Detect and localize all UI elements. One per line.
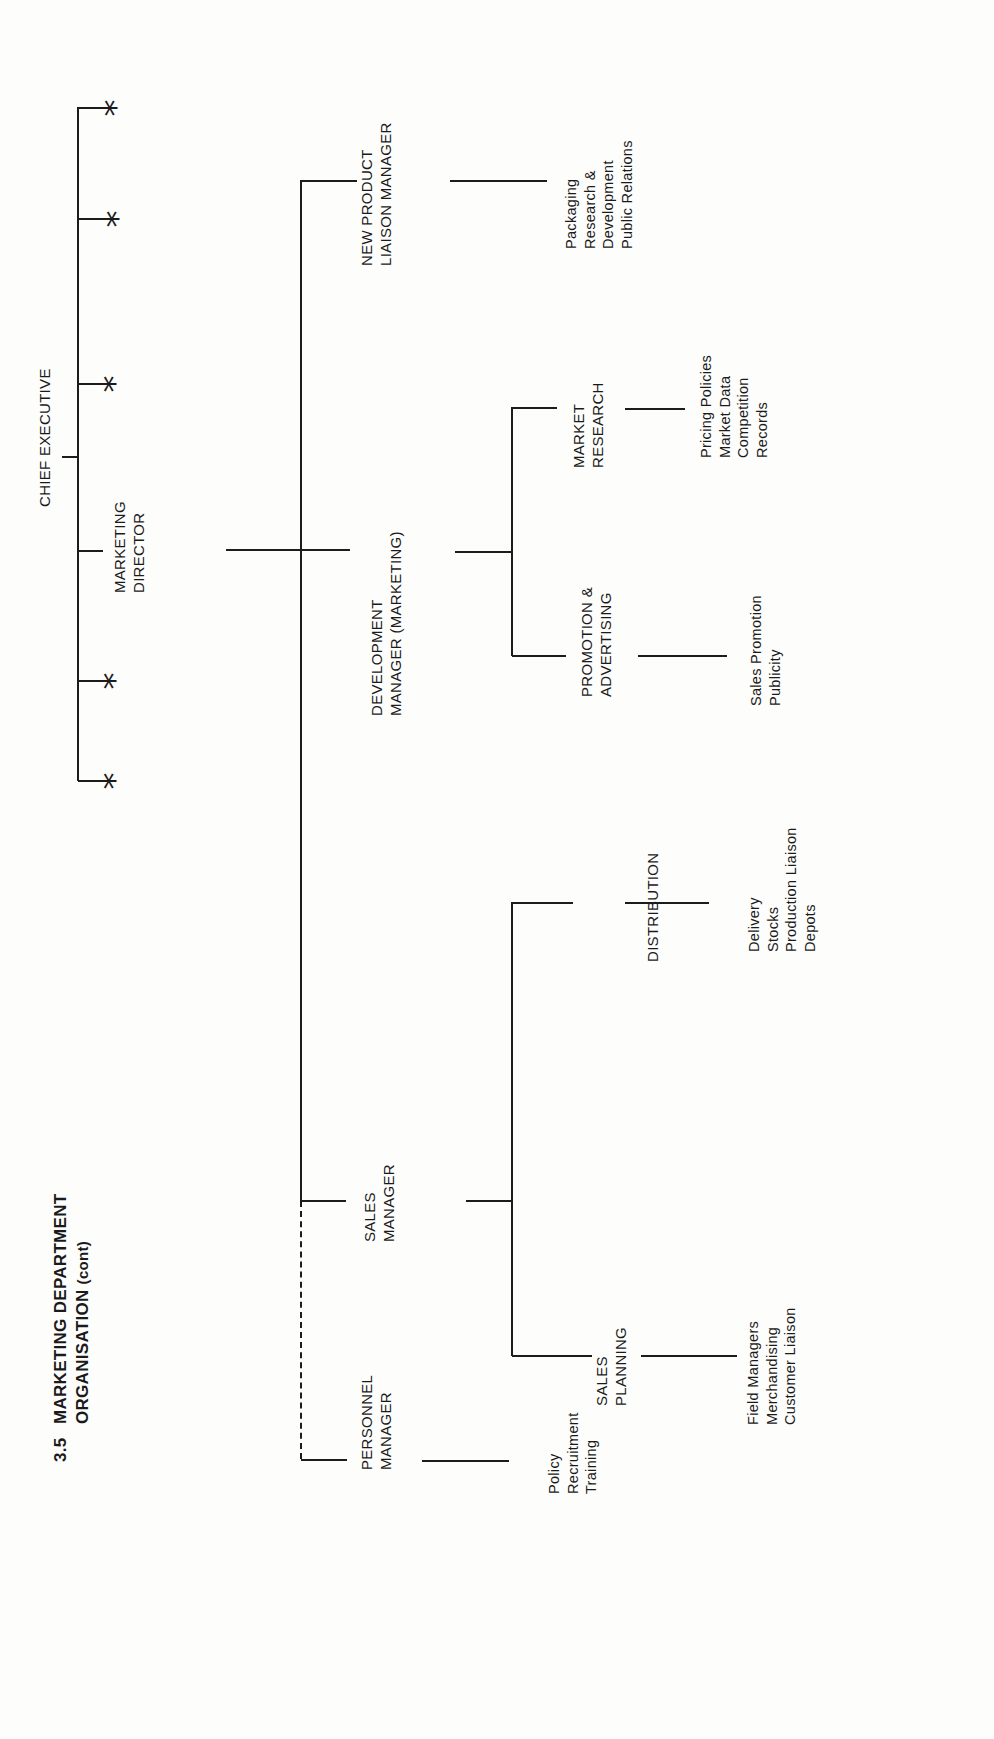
personnel-manager-label: PERSONNEL MANAGER xyxy=(357,1375,395,1470)
director-connector xyxy=(226,549,350,551)
distribution-branch xyxy=(512,902,573,904)
distribution-label: DISTRIBUTION xyxy=(643,853,662,962)
sales-manager-label: SALES MANAGER xyxy=(360,1164,398,1242)
promotion-branch xyxy=(512,655,566,657)
personnel-duties: Policy Recruitment Training xyxy=(545,1413,601,1494)
asterisk-icon: * xyxy=(98,100,132,117)
chief-executive-label: CHIEF EXECUTIVE xyxy=(35,368,54,507)
asterisk-icon: * xyxy=(97,773,131,790)
sales-connector xyxy=(466,1200,512,1202)
personnel-branch xyxy=(301,1459,347,1461)
development-connector xyxy=(455,551,512,553)
title-suffix: (cont) xyxy=(74,1241,91,1284)
personnel-duties-connector xyxy=(422,1460,509,1462)
market-research-duties: Pricing Policies Market Data Competition… xyxy=(697,355,771,458)
personnel-dashed-link xyxy=(300,1201,302,1459)
title-line-1: MARKETING DEPARTMENT xyxy=(51,1194,70,1424)
asterisk-icon: * xyxy=(97,673,131,690)
distribution-duties-connector xyxy=(625,902,709,904)
asterisk-icon: * xyxy=(97,376,131,393)
sales-planning-branch xyxy=(512,1355,592,1357)
sales-planning-label: SALES PLANNING xyxy=(592,1327,630,1406)
chief-executive-tick xyxy=(62,456,78,458)
title-line-2: ORGANISATION xyxy=(73,1289,92,1424)
development-manager-label: DEVELOPMENT MANAGER (MARKETING) xyxy=(367,531,405,716)
new-product-duties-connector xyxy=(450,180,547,182)
section-number: 3.5 xyxy=(50,1424,72,1462)
new-product-manager-label: NEW PRODUCT LIAISON MANAGER xyxy=(357,122,395,266)
sales-planning-duties: Field Managers Merchandising Customer Li… xyxy=(744,1307,800,1425)
market-research-label: MARKET RESEARCH xyxy=(569,382,607,468)
marketing-director-label: MARKETING DIRECTOR xyxy=(110,501,148,593)
new-product-duties: Packaging Research & Development Public … xyxy=(562,140,636,249)
promotion-duties: Sales Promotion Publicity xyxy=(747,595,784,706)
sales-manager-branch xyxy=(301,1200,346,1202)
page-title: 3.5MARKETING DEPARTMENT ORGANISATION (co… xyxy=(50,1194,94,1462)
sales-planning-duties-connector xyxy=(641,1355,737,1357)
promotion-label: PROMOTION & ADVERTISING xyxy=(577,587,615,697)
department-spine xyxy=(300,180,302,1201)
promotion-duties-connector xyxy=(638,655,727,657)
new-product-branch xyxy=(301,180,357,182)
market-research-duties-connector xyxy=(625,408,685,410)
asterisk-icon: * xyxy=(100,211,134,228)
sales-bracket xyxy=(511,902,513,1356)
development-bracket xyxy=(511,407,513,656)
marketing-director-tick xyxy=(78,550,103,552)
distribution-duties: Delivery Stocks Production Liaison Depot… xyxy=(745,827,819,952)
market-research-branch xyxy=(512,407,557,409)
